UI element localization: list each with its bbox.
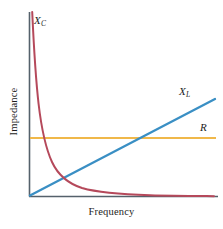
series-curve-capacitive-reactance bbox=[32, 12, 214, 196]
x-axis-title: Frequency bbox=[0, 206, 223, 217]
series-line-inductive-reactance bbox=[30, 99, 215, 196]
series-label-xl: XL bbox=[179, 85, 190, 97]
series-label-xc: XC bbox=[34, 14, 46, 26]
series-label-r: R bbox=[200, 121, 207, 133]
chart-plot-area bbox=[0, 0, 223, 229]
impedance-vs-frequency-chart: XC XL R Frequency Impedance bbox=[0, 0, 223, 229]
y-axis-title: Impedance bbox=[8, 67, 19, 157]
